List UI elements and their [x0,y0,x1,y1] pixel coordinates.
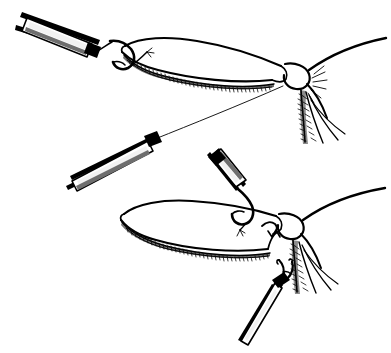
surgical-illustration-figure [0,0,391,353]
illustration-canvas [0,0,391,353]
figure-background [0,0,391,353]
